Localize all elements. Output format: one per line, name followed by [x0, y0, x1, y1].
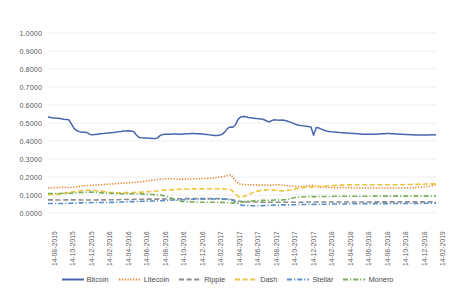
- legend-label: Dash: [260, 275, 277, 284]
- legend-label: Bitcoin: [87, 275, 109, 284]
- x-tick-label: 14-02-2016: [106, 231, 113, 266]
- x-tick-label: 14-02-2017: [217, 231, 224, 266]
- x-tick-label: 14-12-2018: [421, 231, 428, 266]
- legend-item-ripple[interactable]: Ripple: [179, 275, 225, 284]
- x-tick-label: 14-04-2018: [347, 231, 354, 266]
- legend-swatch-dashdot-line: [287, 275, 309, 284]
- legend-item-monero[interactable]: Monero: [343, 275, 393, 284]
- y-tick-label: 1.0000: [2, 29, 42, 38]
- x-tick-label: 14-10-2017: [291, 231, 298, 266]
- x-tick-label: 14-12-2017: [310, 231, 317, 266]
- legend-label: Ripple: [204, 275, 225, 284]
- legend-swatch-dashdot-line: [343, 275, 365, 284]
- series-line-bitcoin: [48, 117, 436, 139]
- chart-legend: BitcoinLitecoinRippleDashStellarMonero: [0, 271, 455, 287]
- x-tick-label: 14-08-2018: [384, 231, 391, 266]
- y-tick-label: 0.9000: [2, 47, 42, 56]
- y-tick-label: 0.1000: [2, 191, 42, 200]
- legend-item-bitcoin[interactable]: Bitcoin: [62, 275, 109, 284]
- y-tick-label: 0.4000: [2, 137, 42, 146]
- x-tick-label: 14-10-2015: [69, 231, 76, 266]
- y-tick-label: 0.0000: [2, 209, 42, 218]
- legend-label: Monero: [368, 275, 393, 284]
- legend-label: Litecoin: [144, 275, 169, 284]
- x-tick-label: 14-12-2015: [88, 231, 95, 266]
- y-tick-label: 0.6000: [2, 101, 42, 110]
- legend-item-litecoin[interactable]: Litecoin: [119, 275, 169, 284]
- gridlines: [48, 33, 436, 213]
- legend-item-stellar[interactable]: Stellar: [287, 275, 333, 284]
- x-tick-label: 14-04-2017: [236, 231, 243, 266]
- y-tick-label: 0.2000: [2, 173, 42, 182]
- legend-item-dash[interactable]: Dash: [235, 275, 277, 284]
- x-tick-label: 14-06-2016: [143, 231, 150, 266]
- x-tick-label: 14-02-2018: [328, 231, 335, 266]
- x-tick-label: 14-08-2016: [162, 231, 169, 266]
- x-tick-label: 14-02-2019: [439, 231, 446, 266]
- x-tick-label: 14-08-2017: [273, 231, 280, 266]
- legend-swatch-dashed-line: [179, 275, 201, 284]
- x-tick-label: 14-06-2017: [254, 231, 261, 266]
- y-tick-label: 0.5000: [2, 119, 42, 128]
- legend-swatch-solid-line: [62, 275, 84, 284]
- cryptocurrency-line-chart: 0.00000.10000.20000.30000.40000.50000.60…: [0, 0, 455, 303]
- legend-label: Stellar: [312, 275, 333, 284]
- x-tick-label: 14-10-2018: [402, 231, 409, 266]
- x-tick-label: 14-04-2016: [125, 231, 132, 266]
- series-lines: [48, 117, 436, 206]
- x-tick-label: 14-12-2016: [199, 231, 206, 266]
- x-tick-label: 14-10-2016: [180, 231, 187, 266]
- y-tick-label: 0.7000: [2, 83, 42, 92]
- x-tick-label: 14-08-2015: [51, 231, 58, 266]
- legend-swatch-dotted-line: [119, 275, 141, 284]
- legend-swatch-dashed-line: [235, 275, 257, 284]
- x-tick-label: 14-06-2018: [365, 231, 372, 266]
- y-tick-label: 0.3000: [2, 155, 42, 164]
- y-tick-label: 0.8000: [2, 65, 42, 74]
